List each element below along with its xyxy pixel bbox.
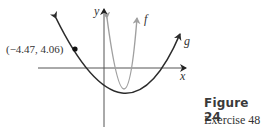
point-label: (−4.47, 4.06) [6, 43, 64, 56]
curve-f-label: f [144, 12, 149, 26]
x-axis-label: x [179, 69, 186, 83]
curve-g-label: g [184, 34, 190, 48]
marked-point [72, 46, 77, 51]
curve-f [107, 18, 137, 89]
figure-subtitle: Exercise 48 [204, 113, 260, 128]
curve-g [56, 18, 180, 93]
y-axis-label: y [93, 4, 100, 18]
